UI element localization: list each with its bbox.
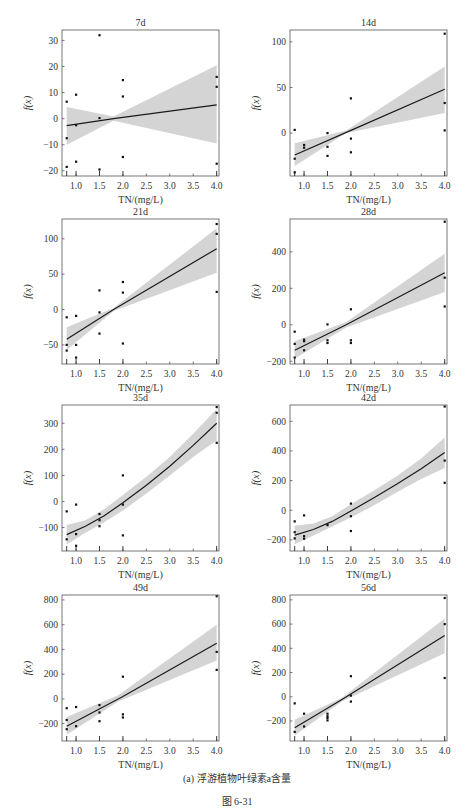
data-point — [75, 504, 77, 506]
data-point — [350, 695, 352, 697]
y-tick-label: −50 — [43, 340, 58, 350]
data-point — [326, 339, 328, 341]
data-point — [303, 538, 305, 540]
x-tick-label: 3.5 — [187, 181, 199, 191]
y-tick-label: 400 — [272, 644, 287, 654]
data-point — [66, 707, 68, 709]
y-tick-label: 400 — [272, 247, 287, 257]
y-tick-label: 0 — [53, 305, 58, 315]
x-tick-label: 2.0 — [345, 369, 357, 379]
y-tick-label: 0 — [281, 506, 286, 516]
confidence-band — [67, 228, 217, 350]
x-tick-label: 3.5 — [415, 556, 427, 566]
data-point — [303, 349, 305, 351]
y-tick-label: 100 — [272, 37, 287, 47]
y-tick-label: 400 — [44, 645, 59, 655]
data-point — [303, 340, 305, 342]
x-tick-label: 2.0 — [117, 181, 129, 191]
x-tick-label: 3.0 — [164, 181, 176, 191]
x-tick-label: 2.5 — [140, 369, 152, 379]
data-point — [216, 223, 218, 225]
y-tick-label: 200 — [44, 445, 59, 455]
x-tick-label: 3.5 — [415, 746, 427, 756]
data-point — [98, 711, 100, 713]
x-tick-label: 1.0 — [298, 369, 310, 379]
data-point — [75, 315, 77, 317]
data-point — [444, 102, 446, 104]
y-tick-label: 600 — [44, 620, 59, 630]
x-tick-label: 4.0 — [439, 746, 451, 756]
figure-canvas: 1.01.52.02.53.03.54.0−20−1001020307dTN/(… — [0, 0, 474, 811]
data-point — [303, 147, 305, 149]
data-point — [66, 137, 68, 139]
data-point — [98, 513, 100, 515]
x-tick-label: 2.0 — [345, 181, 357, 191]
data-point — [326, 146, 328, 148]
y-tick-label: 800 — [44, 595, 59, 605]
y-tick-label: 0 — [281, 128, 286, 138]
data-point — [444, 129, 446, 131]
data-point — [350, 342, 352, 344]
data-point — [98, 289, 100, 291]
data-point — [326, 132, 328, 134]
figure-subcaption: (a) 浮游植物叶绿素a含量 — [0, 770, 474, 785]
x-tick-label: 1.0 — [298, 746, 310, 756]
y-tick-label: 200 — [272, 476, 287, 486]
x-tick-label: 1.5 — [322, 181, 334, 191]
x-tick-label: 1.5 — [322, 369, 334, 379]
data-point — [216, 406, 218, 408]
panel-title: 7d — [136, 17, 146, 28]
data-point — [75, 357, 77, 359]
data-point — [444, 677, 446, 679]
data-point — [216, 86, 218, 88]
y-tick-label: 300 — [44, 419, 59, 429]
data-point — [122, 474, 124, 476]
data-point — [98, 168, 100, 170]
x-tick-label: 1.5 — [322, 556, 334, 566]
data-point — [216, 76, 218, 78]
x-tick-label: 1.0 — [70, 746, 82, 756]
y-tick-label: 0 — [53, 114, 58, 124]
y-axis-label: f(x) — [22, 470, 34, 485]
data-point — [122, 676, 124, 678]
y-axis-label: f(x) — [22, 95, 34, 110]
x-tick-label: 4.0 — [211, 746, 223, 756]
x-axis-label: TN/(mg/L) — [346, 194, 390, 206]
data-point — [216, 595, 218, 597]
data-point — [326, 342, 328, 344]
data-point — [326, 719, 328, 721]
data-point — [75, 94, 77, 96]
chart-panel-28d: 1.01.52.02.53.03.54.0−200020040028dTN/(m… — [250, 206, 451, 394]
data-point — [303, 514, 305, 516]
panel-title: 56d — [361, 582, 376, 593]
data-point — [122, 79, 124, 81]
x-tick-label: 4.0 — [439, 369, 451, 379]
data-point — [294, 129, 296, 131]
x-tick-label: 3.0 — [164, 556, 176, 566]
y-tick-label: −200 — [266, 716, 286, 726]
y-axis-label: f(x) — [22, 660, 34, 675]
data-point — [303, 713, 305, 715]
data-point — [303, 144, 305, 146]
y-tick-label: −200 — [38, 719, 58, 729]
data-point — [326, 717, 328, 719]
data-point — [75, 161, 77, 163]
data-point — [98, 117, 100, 119]
chart-panel-49d: 1.01.52.02.53.03.54.0−200020040060080049… — [22, 582, 223, 771]
data-point — [216, 163, 218, 165]
y-tick-label: 0 — [53, 694, 58, 704]
x-tick-label: 1.5 — [94, 556, 106, 566]
x-tick-label: 3.0 — [392, 746, 404, 756]
data-point — [75, 706, 77, 708]
x-tick-label: 1.5 — [322, 746, 334, 756]
x-tick-label: 3.5 — [415, 369, 427, 379]
x-axis-label: TN/(mg/L) — [118, 194, 162, 206]
data-point — [122, 95, 124, 97]
y-axis-label: f(x) — [250, 284, 262, 299]
data-point — [75, 725, 77, 727]
data-point — [98, 333, 100, 335]
x-tick-label: 4.0 — [211, 556, 223, 566]
x-tick-label: 3.5 — [187, 746, 199, 756]
data-point — [122, 716, 124, 718]
data-point — [294, 357, 296, 359]
